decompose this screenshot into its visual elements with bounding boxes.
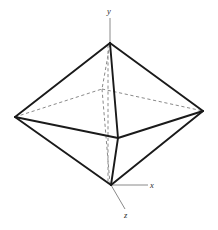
octahedron-drawing <box>0 0 218 230</box>
z-axis-label: z <box>124 211 127 220</box>
x-axis-label: x <box>150 181 154 190</box>
figure-background <box>0 0 218 230</box>
y-axis-label: y <box>107 7 111 16</box>
figure-canvas: y x z <box>0 0 218 230</box>
